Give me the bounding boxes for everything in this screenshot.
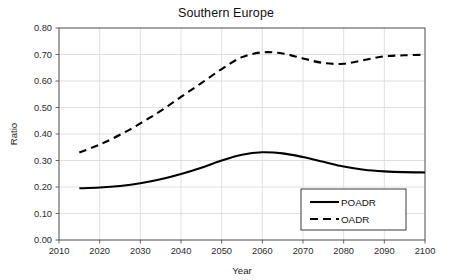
x-tick-label: 2020 [89,246,110,256]
chart-legend[interactable]: POADROADR [301,189,406,230]
x-tick-label: 2010 [49,246,70,256]
y-tick-label: 0.50 [34,103,52,113]
x-tick-label: 2090 [374,246,395,256]
y-tick-label: 0.30 [34,156,52,166]
chart-container: Southern Europe 0.000.100.200.300.400.50… [0,0,452,280]
legend-label-oadr[interactable]: OADR [341,214,369,225]
y-tick-label: 0.60 [34,76,52,86]
data-series-group [79,52,425,188]
chart-plot-area: 0.000.100.200.300.400.500.600.700.80 201… [0,0,452,280]
y-tick-label: 0.80 [34,23,52,33]
y-axis-tick-labels: 0.000.100.200.300.400.500.600.700.80 [34,23,52,245]
x-tick-label: 2050 [211,246,232,256]
x-tick-label: 2070 [293,246,314,256]
x-tick-label: 2080 [333,246,354,256]
series-line-oadr [79,52,425,152]
y-tick-label: 0.70 [34,50,52,60]
x-axis-label: Year [232,265,252,276]
y-tick-label: 0.40 [34,129,52,139]
series-line-poadr [79,152,425,188]
y-tick-label: 0.20 [34,182,52,192]
x-tick-label: 2040 [171,246,192,256]
x-axis-tick-labels: 2010202020302040205020602070208020902100 [49,246,436,256]
x-tick-label: 2100 [415,246,436,256]
x-tick-label: 2030 [130,246,151,256]
y-tick-label: 0.00 [34,235,52,245]
y-axis-label: Ratio [8,123,19,145]
x-tick-label: 2060 [252,246,273,256]
y-tick-label: 0.10 [34,209,52,219]
legend-label-poadr[interactable]: POADR [341,197,376,208]
